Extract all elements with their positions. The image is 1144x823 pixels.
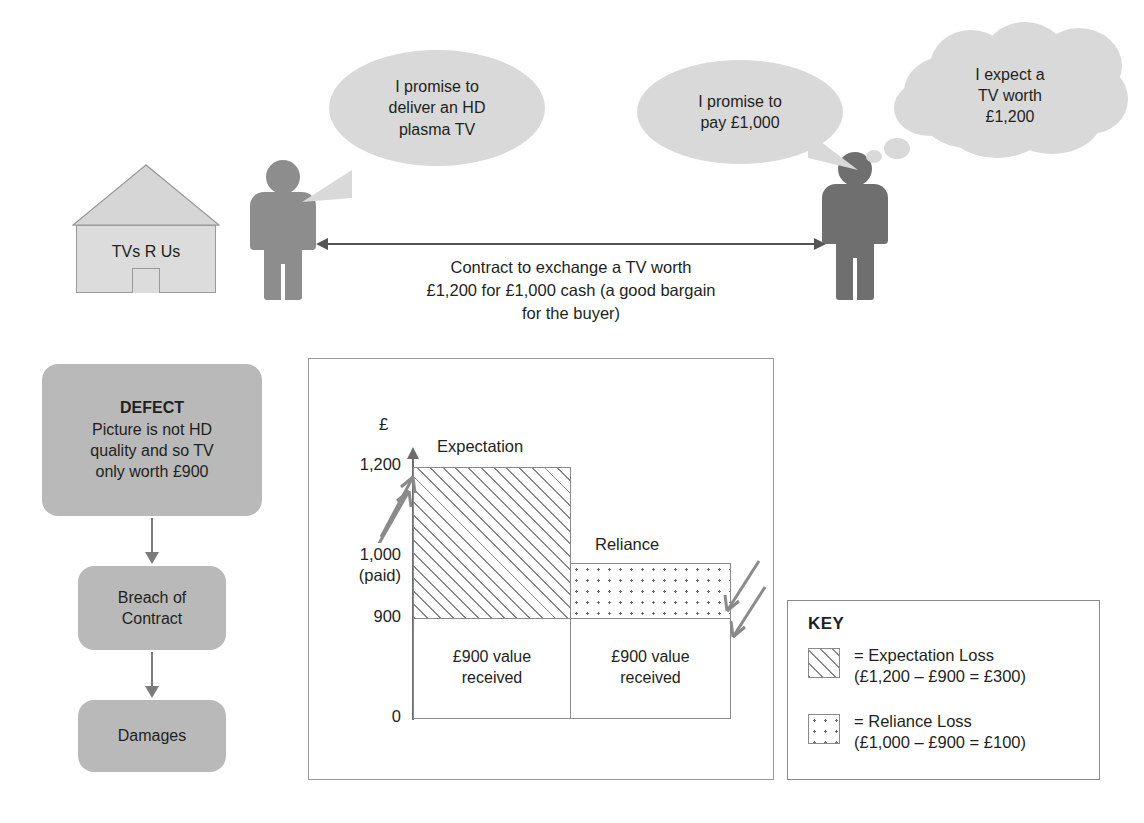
- buyer-torso: [822, 184, 888, 244]
- seller-leg-gap: [281, 264, 285, 300]
- contract-double-arrow: [316, 238, 826, 250]
- key-legend-panel: KEY = Expectation Loss (£1,200 – £900 = …: [787, 600, 1100, 780]
- buyer-speech-bubble: I promise to pay £1,000: [637, 60, 843, 164]
- bar-expectation-value-label: £900 value received: [414, 647, 570, 689]
- bar-expectation-value-received: £900 value received: [413, 618, 571, 719]
- defect-body-text: Picture is not HD quality and so TV only…: [90, 419, 213, 483]
- reliance-loss-annotation-arrows: [713, 555, 781, 641]
- contract-description-text: Contract to exchange a TV worth £1,200 f…: [371, 256, 771, 324]
- buyer-thought-cloud: I expect a TV worth £1,200: [890, 20, 1130, 170]
- dots-swatch-icon: [808, 714, 840, 744]
- key-item-reliance-loss-text: = Reliance Loss (£1,000 – £900 = £100): [854, 711, 1026, 754]
- y-tick-0: 0: [309, 707, 401, 726]
- contract-arrow-line: [326, 243, 816, 245]
- bar-expectation-loss-band: [413, 467, 571, 619]
- chart-y-axis-label: £: [379, 415, 388, 435]
- defect-heading: DEFECT: [120, 397, 184, 418]
- bar-reliance-value-label: £900 value received: [571, 647, 730, 689]
- buyer-leg-gap: [853, 258, 857, 300]
- damages-chart-panel: £ 1,200 1,000 (paid) 900 0 Expectation R…: [308, 358, 774, 780]
- seller-speech-tail: [300, 168, 352, 212]
- flow-node-breach: Breach of Contract: [78, 566, 226, 650]
- shop-house-illustration: TVs R Us: [72, 164, 220, 294]
- seller-speech-text: I promise to deliver an HD plasma TV: [389, 76, 486, 139]
- buyer-speech-text: I promise to pay £1,000: [698, 91, 782, 133]
- chart-series-label-expectation: Expectation: [437, 437, 523, 456]
- expectation-loss-annotation-arrows: [371, 465, 431, 543]
- hatch-swatch-icon: [808, 648, 840, 678]
- y-tick-900: 900: [309, 607, 401, 626]
- key-item-expectation-loss-text: = Expectation Loss (£1,200 – £900 = £300…: [854, 645, 1026, 688]
- breach-label: Breach of Contract: [118, 587, 186, 630]
- bar-reliance-value-received: £900 value received: [570, 618, 731, 719]
- shop-name-label: TVs R Us: [72, 243, 220, 261]
- house-door-icon: [132, 268, 160, 293]
- key-item-expectation-loss: = Expectation Loss (£1,200 – £900 = £300…: [808, 645, 1026, 688]
- flow-node-damages: Damages: [78, 700, 226, 772]
- buyer-thought-text: I expect a TV worth £1,200: [920, 64, 1100, 127]
- thought-puff-small: [866, 150, 882, 163]
- seller-head: [266, 160, 300, 194]
- bar-reliance-loss-band: [570, 563, 731, 619]
- flow-arrow-breach-to-damages: [145, 652, 159, 698]
- seller-speech-bubble: I promise to deliver an HD plasma TV: [329, 50, 545, 166]
- flow-arrow-defect-to-breach: [145, 518, 159, 564]
- damages-label: Damages: [118, 725, 186, 746]
- house-roof-outline: [72, 164, 220, 226]
- contract-arrowhead-right: [814, 238, 826, 250]
- chart-plot-area: £ 1,200 1,000 (paid) 900 0 Expectation R…: [309, 359, 775, 781]
- chart-series-label-reliance: Reliance: [595, 535, 659, 554]
- key-item-reliance-loss: = Reliance Loss (£1,000 – £900 = £100): [808, 711, 1026, 754]
- key-title: KEY: [808, 614, 844, 634]
- y-tick-1000-paid: 1,000 (paid): [309, 544, 401, 585]
- flow-node-defect: DEFECT Picture is not HD quality and so …: [42, 364, 262, 516]
